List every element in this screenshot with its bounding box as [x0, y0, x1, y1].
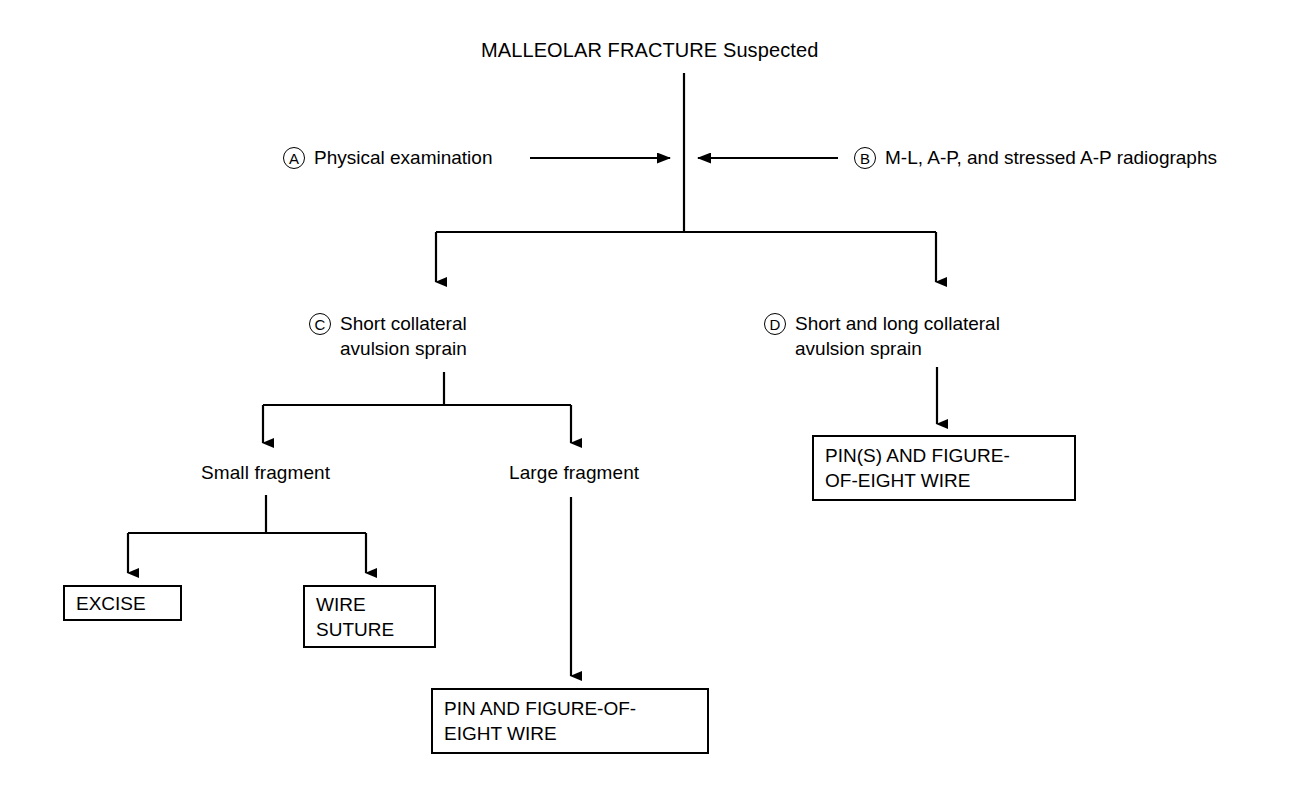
step-node-a[interactable]: A Physical examination — [283, 145, 492, 170]
treatment-box-pins-and-figure-of-eight-wire[interactable]: PIN(S) AND FIGURE- OF-EIGHT WIRE — [812, 435, 1076, 501]
treatment-label-excise: EXCISE — [76, 591, 146, 616]
step-label-a: Physical examination — [314, 145, 492, 170]
treatment-label-pin-and-figure-of-eight-wire: PIN AND FIGURE-OF- EIGHT WIRE — [444, 696, 636, 746]
step-badge-d: D — [764, 313, 786, 335]
flowchart-canvas: MALLEOLAR FRACTURE Suspected A Physical … — [0, 0, 1314, 793]
treatment-box-excise[interactable]: EXCISE — [63, 585, 182, 621]
step-label-c: Short collateral avulsion sprain — [340, 311, 467, 361]
branch-label-small-fragment: Small fragment — [201, 460, 330, 485]
treatment-box-wire-suture[interactable]: WIRE SUTURE — [303, 585, 436, 648]
treatment-label-wire-suture: WIRE SUTURE — [316, 592, 394, 642]
step-node-b[interactable]: B M-L, A-P, and stressed A-P radiographs — [854, 145, 1217, 170]
flowchart-connectors — [0, 0, 1314, 793]
step-label-d: Short and long collateral avulsion sprai… — [795, 311, 1000, 361]
step-node-c[interactable]: C Short collateral avulsion sprain — [309, 311, 467, 361]
step-node-d[interactable]: D Short and long collateral avulsion spr… — [764, 311, 1000, 361]
step-label-b: M-L, A-P, and stressed A-P radiographs — [885, 145, 1217, 170]
branch-label-large-fragment: Large fragment — [509, 460, 639, 485]
treatment-box-pin-and-figure-of-eight-wire[interactable]: PIN AND FIGURE-OF- EIGHT WIRE — [431, 688, 709, 754]
page-title: MALLEOLAR FRACTURE Suspected — [481, 38, 818, 63]
step-badge-b: B — [854, 147, 876, 169]
treatment-label-pins-and-figure-of-eight-wire: PIN(S) AND FIGURE- OF-EIGHT WIRE — [825, 443, 1010, 493]
step-badge-c: C — [309, 313, 331, 335]
step-badge-a: A — [283, 147, 305, 169]
